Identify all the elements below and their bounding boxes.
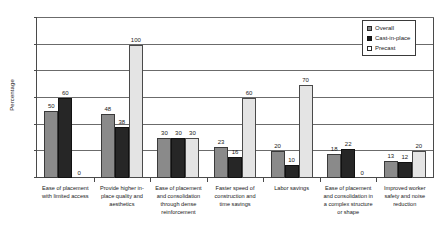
- x-tick-mark: [207, 178, 208, 182]
- x-axis-category-label: Improved worker safety and noise reducti…: [376, 184, 433, 216]
- bar-group: 4838100: [94, 18, 151, 178]
- x-tick-mark: [376, 178, 377, 182]
- bar-column: 60: [58, 18, 72, 178]
- x-axis-category-label: Faster speed of construction and time sa…: [207, 184, 264, 216]
- bar-chart: Percentage 020406080100120 5060048381003…: [0, 0, 446, 227]
- bar: [412, 151, 426, 178]
- bar: [398, 162, 412, 178]
- bar: [185, 138, 199, 178]
- legend-item-overall: Overall: [367, 25, 410, 31]
- bar: [242, 98, 256, 178]
- bar-column: 30: [157, 18, 171, 178]
- bar-column: 22: [341, 18, 355, 178]
- bar: [58, 98, 72, 178]
- bar-column: 50: [44, 18, 58, 178]
- x-axis-category-label: Ease of placement with limited access: [37, 184, 94, 216]
- bar-column: 100: [129, 18, 143, 178]
- bar-column: 48: [101, 18, 115, 178]
- bar-value-label: 60: [236, 90, 262, 97]
- bar-column: 70: [299, 18, 313, 178]
- bar-value-label: 70: [293, 77, 319, 84]
- bar-column: 10: [285, 18, 299, 178]
- bar-column: 18: [327, 18, 341, 178]
- bar-value-label: 0: [66, 170, 92, 177]
- legend-swatch-cast-in-place-icon: [367, 36, 372, 41]
- x-tick-mark: [263, 178, 264, 182]
- bar-column: 30: [185, 18, 199, 178]
- bar: [384, 161, 398, 178]
- chart-legend: Overall Cast-in-place Precast: [362, 20, 416, 56]
- legend-item-cast-in-place: Cast-in-place: [367, 35, 410, 41]
- legend-swatch-overall-icon: [367, 26, 372, 31]
- x-tick-mark: [150, 178, 151, 182]
- bar: [129, 45, 143, 178]
- x-axis-category-label: Ease of placement and consolidation in a…: [320, 184, 377, 216]
- legend-swatch-precast-icon: [367, 46, 372, 51]
- bar-column: 60: [242, 18, 256, 178]
- bar: [271, 151, 285, 178]
- bar: [115, 127, 129, 178]
- y-axis-title: Percentage: [9, 59, 15, 131]
- plot-right-border: [433, 18, 434, 178]
- bar-value-label: 0: [349, 170, 375, 177]
- bar: [157, 138, 171, 178]
- bar-column: 16: [228, 18, 242, 178]
- x-axis-category-label: Labor savings: [263, 184, 320, 216]
- x-tick-mark: [320, 178, 321, 182]
- bar: [171, 138, 185, 178]
- bar-group: 303030: [150, 18, 207, 178]
- bar: [228, 157, 242, 178]
- bar-column: 30: [171, 18, 185, 178]
- x-axis-category-label: Ease of placement and consolidation thro…: [150, 184, 207, 216]
- legend-label-precast: Precast: [375, 45, 395, 51]
- legend-label-overall: Overall: [375, 25, 394, 31]
- bar-group: 201070: [263, 18, 320, 178]
- bar-value-label: 30: [179, 130, 205, 137]
- x-axis-category-labels: Ease of placement with limited accessPro…: [37, 184, 433, 216]
- legend-label-cast-in-place: Cast-in-place: [375, 35, 410, 41]
- bar-group: 231660: [207, 18, 264, 178]
- bar: [44, 111, 58, 178]
- bar-value-label: 100: [123, 37, 149, 44]
- bar-value-label: 20: [406, 143, 432, 150]
- bar: [327, 154, 341, 178]
- bar: [299, 85, 313, 178]
- legend-item-precast: Precast: [367, 45, 410, 51]
- x-tick-mark: [94, 178, 95, 182]
- x-axis-category-label: Provide higher in-place quality and aest…: [94, 184, 151, 216]
- bar-column: 0: [72, 18, 86, 178]
- bar: [285, 165, 299, 178]
- bar-group: 50600: [37, 18, 94, 178]
- bar-column: 20: [271, 18, 285, 178]
